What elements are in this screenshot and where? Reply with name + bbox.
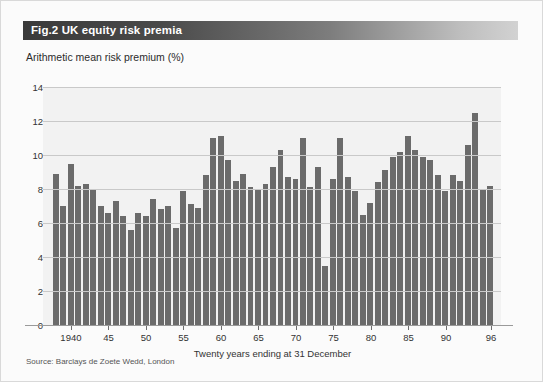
y-axis-tick-label: 14 bbox=[23, 82, 43, 93]
bar bbox=[435, 175, 441, 325]
bar bbox=[330, 179, 336, 325]
x-axis-tick bbox=[371, 326, 372, 330]
figure-number: Fig.2 bbox=[31, 24, 58, 36]
bar bbox=[382, 170, 388, 325]
bar bbox=[173, 228, 179, 325]
gridline bbox=[43, 121, 501, 122]
bar bbox=[397, 152, 403, 325]
x-axis-tick-label: 96 bbox=[486, 332, 497, 344]
x-axis-tick-label: 70 bbox=[291, 332, 302, 344]
bar bbox=[210, 138, 216, 325]
gridline bbox=[43, 189, 501, 190]
bar bbox=[120, 216, 126, 325]
x-axis-tick-label: 65 bbox=[253, 332, 264, 344]
bar bbox=[315, 167, 321, 325]
bar bbox=[218, 136, 224, 325]
x-axis-tick-label: 45 bbox=[103, 332, 114, 344]
x-axis-tick-label: 1940 bbox=[60, 332, 81, 344]
x-axis-tick bbox=[446, 326, 447, 330]
bar bbox=[345, 177, 351, 325]
bar bbox=[225, 160, 231, 325]
x-axis-tick bbox=[183, 326, 184, 330]
bar bbox=[360, 215, 366, 326]
bar bbox=[420, 157, 426, 325]
y-axis-tick-label: 2 bbox=[23, 286, 43, 297]
y-axis-tick-label: 8 bbox=[23, 184, 43, 195]
bar bbox=[405, 136, 411, 325]
gridline bbox=[43, 155, 501, 156]
bar bbox=[337, 138, 343, 325]
gridline bbox=[43, 257, 501, 258]
bar bbox=[113, 201, 119, 325]
bar bbox=[487, 186, 493, 325]
x-axis-tick bbox=[333, 326, 334, 330]
bar bbox=[150, 199, 156, 325]
bar bbox=[427, 160, 433, 325]
x-axis-tick bbox=[146, 326, 147, 330]
x-axis-tick bbox=[296, 326, 297, 330]
bar bbox=[75, 186, 81, 325]
bar bbox=[375, 182, 381, 325]
bar bbox=[472, 113, 478, 326]
bar bbox=[233, 181, 239, 326]
x-axis-tick bbox=[71, 326, 72, 330]
x-axis-tick bbox=[221, 326, 222, 330]
x-axis-labels: 19404550556065707580859096 bbox=[43, 332, 501, 346]
bar bbox=[457, 181, 463, 326]
x-axis-tick-label: 80 bbox=[366, 332, 377, 344]
bar bbox=[293, 179, 299, 325]
bar bbox=[285, 177, 291, 325]
y-axis: 02468101214 bbox=[23, 81, 43, 331]
bar bbox=[53, 174, 59, 325]
bar bbox=[412, 150, 418, 325]
bar bbox=[263, 184, 269, 325]
x-axis-tick-label: 60 bbox=[216, 332, 227, 344]
bar bbox=[135, 213, 141, 325]
x-axis-ticks bbox=[43, 326, 501, 331]
x-axis-tick-label: 55 bbox=[178, 332, 189, 344]
title-bar: Fig.2 UK equity risk premia bbox=[23, 21, 518, 40]
bar bbox=[195, 208, 201, 325]
page-title: Fig.2 UK equity risk premia bbox=[31, 23, 182, 38]
bar bbox=[390, 157, 396, 325]
bar bbox=[450, 175, 456, 325]
bar-series bbox=[53, 87, 493, 325]
bar bbox=[83, 184, 89, 325]
source-note: Source: Barclays de Zoete Wedd, London bbox=[26, 357, 174, 366]
bar bbox=[203, 175, 209, 325]
bar bbox=[158, 209, 164, 325]
x-axis-tick bbox=[491, 326, 492, 330]
bar bbox=[322, 266, 328, 326]
bar bbox=[278, 150, 284, 325]
x-axis-tick-label: 50 bbox=[141, 332, 152, 344]
x-axis-tick bbox=[108, 326, 109, 330]
figure-container: Fig.2 UK equity risk premia Arithmetic m… bbox=[0, 0, 543, 382]
chart-subtitle: Arithmetic mean risk premium (%) bbox=[26, 51, 184, 63]
bar bbox=[143, 216, 149, 325]
gridline bbox=[43, 87, 501, 88]
bar bbox=[105, 213, 111, 325]
y-axis-tick-label: 12 bbox=[23, 116, 43, 127]
gridline bbox=[43, 291, 501, 292]
x-axis-tick bbox=[408, 326, 409, 330]
x-axis-tick-label: 75 bbox=[328, 332, 339, 344]
gridline bbox=[43, 223, 501, 224]
bar bbox=[128, 230, 134, 325]
bar bbox=[68, 164, 74, 326]
y-axis-tick-label: 10 bbox=[23, 150, 43, 161]
bar bbox=[367, 203, 373, 325]
x-axis-tick-label: 85 bbox=[403, 332, 414, 344]
x-axis-tick bbox=[258, 326, 259, 330]
x-axis-tick-label: 90 bbox=[441, 332, 452, 344]
figure-title-text: UK equity risk premia bbox=[62, 24, 182, 36]
y-axis-tick-label: 4 bbox=[23, 252, 43, 263]
bar bbox=[465, 145, 471, 325]
y-axis-tick-label: 6 bbox=[23, 218, 43, 229]
bar bbox=[270, 167, 276, 325]
plot-area bbox=[43, 87, 501, 325]
bar bbox=[240, 174, 246, 325]
bar bbox=[300, 138, 306, 325]
